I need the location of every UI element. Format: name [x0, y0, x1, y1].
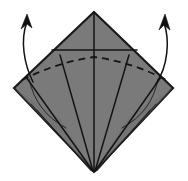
origami-diagram: Origami fold step diagram Gray kite/diam…: [0, 0, 188, 181]
origami-illustration: Origami fold step diagram Gray kite/diam…: [0, 0, 188, 181]
